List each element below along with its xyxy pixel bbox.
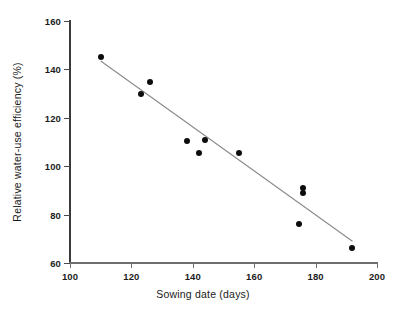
y-tick-label: 120 xyxy=(45,112,61,123)
data-point xyxy=(98,54,104,60)
data-point xyxy=(296,221,302,227)
data-point xyxy=(236,150,242,156)
x-tick-mark xyxy=(254,263,255,268)
data-point xyxy=(184,138,190,144)
y-axis-title: Relative water-use efficiency (%) xyxy=(9,0,25,284)
x-tick-label: 100 xyxy=(62,271,78,282)
x-tick-mark xyxy=(131,263,132,268)
y-tick-label: 160 xyxy=(45,16,61,27)
chart-figure: 6080100120140160 100120140160180200 Rela… xyxy=(0,0,406,318)
x-tick-200: 200 xyxy=(377,21,378,263)
x-tick-label: 200 xyxy=(369,271,385,282)
y-tick-label: 60 xyxy=(50,258,61,269)
data-point xyxy=(349,245,355,251)
data-point xyxy=(202,137,208,143)
x-tick-label: 160 xyxy=(246,271,262,282)
data-point xyxy=(196,150,202,156)
y-axis-title-text: Relative water-use efficiency (%) xyxy=(11,62,23,221)
data-points-layer xyxy=(70,21,377,263)
x-tick-label: 140 xyxy=(185,271,201,282)
y-tick-label: 100 xyxy=(45,161,61,172)
x-tick-mark xyxy=(377,263,378,268)
x-axis-title: Sowing date (days) xyxy=(0,288,406,300)
y-tick-label: 140 xyxy=(45,64,61,75)
x-tick-mark xyxy=(70,263,71,268)
data-point xyxy=(300,190,306,196)
x-tick-label: 120 xyxy=(123,271,139,282)
plot-area: 6080100120140160 100120140160180200 xyxy=(70,21,377,263)
x-tick-mark xyxy=(193,263,194,268)
data-point xyxy=(138,91,144,97)
y-tick-label: 80 xyxy=(50,209,61,220)
x-tick-mark xyxy=(316,263,317,268)
data-point xyxy=(147,79,153,85)
x-tick-label: 180 xyxy=(308,271,324,282)
